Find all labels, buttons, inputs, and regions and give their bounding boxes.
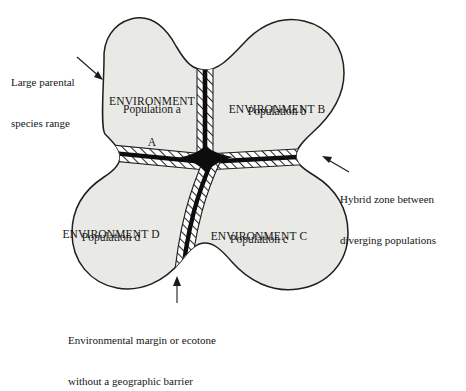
parental-range-callout-line2: species range: [11, 117, 91, 131]
population-c-label: Population c: [198, 233, 320, 247]
ecotone-callout-line1: Environmental margin or ecotone: [68, 334, 268, 348]
population-b-label: Population b: [216, 105, 338, 119]
parental-range-callout: Large parental species range: [11, 48, 91, 158]
population-d-label: Population d: [50, 231, 172, 245]
population-a-label: Population a: [104, 103, 200, 117]
hybrid-zone-callout-line1: Hybrid zone between: [340, 193, 464, 207]
ecotone-callout-line2: without a geographic barrier: [68, 375, 268, 389]
environment-a-label: ENVIRONMENT A: [104, 68, 200, 177]
hybrid-zone-callout: Hybrid zone between diverging population…: [340, 165, 464, 275]
ecotone-callout: Environmental margin or ecotone without …: [68, 306, 268, 391]
environment-a-line2: A: [104, 136, 200, 150]
hybrid-zone-callout-line2: diverging populations: [340, 234, 464, 248]
ecotone-arrow: [173, 276, 181, 303]
parental-range-callout-line1: Large parental: [11, 76, 91, 90]
